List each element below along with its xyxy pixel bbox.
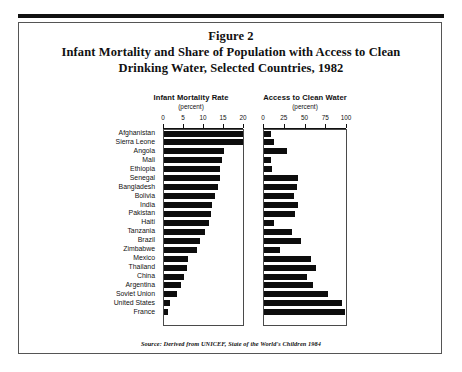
axis-tick xyxy=(243,124,244,128)
country-label: Bolivia xyxy=(73,192,159,201)
country-label: United States xyxy=(73,299,159,308)
bar-access-clean-water xyxy=(264,238,301,244)
bar-infant-mortality xyxy=(164,131,243,137)
table-row: Haiti xyxy=(19,218,443,227)
panel-headings: Infant Mortality Rate (percent) Access t… xyxy=(19,93,443,115)
table-row: Zimbabwe xyxy=(19,245,443,254)
bar-access-clean-water xyxy=(264,220,274,226)
bar-infant-mortality xyxy=(164,309,168,315)
country-label: Soviet Union xyxy=(73,290,159,299)
x-axis-water-labels: 0255075100 xyxy=(263,114,346,123)
chart-area: Infant Mortality Rate (percent) Access t… xyxy=(19,93,443,343)
bar-infant-mortality xyxy=(164,175,220,181)
country-label: Argentina xyxy=(73,281,159,290)
bar-access-clean-water xyxy=(264,291,328,297)
bar-infant-mortality xyxy=(164,193,215,199)
axis-tick-label: 10 xyxy=(199,114,206,121)
table-row: Angola xyxy=(19,147,443,156)
axis-tick xyxy=(183,124,184,128)
table-row: Senegal xyxy=(19,174,443,183)
country-label: Sierra Leone xyxy=(73,138,159,147)
axis-tick xyxy=(346,124,347,128)
axis-tick xyxy=(203,124,204,128)
country-label: Angola xyxy=(73,147,159,156)
bar-access-clean-water xyxy=(264,309,345,315)
country-label: China xyxy=(73,272,159,281)
bar-access-clean-water xyxy=(264,256,311,262)
bar-infant-mortality xyxy=(164,238,200,244)
axis-tick xyxy=(284,124,285,128)
bar-access-clean-water xyxy=(264,265,316,271)
bar-infant-mortality xyxy=(164,220,209,226)
bar-infant-mortality xyxy=(164,291,177,297)
bar-infant-mortality xyxy=(164,184,218,190)
country-label: Brazil xyxy=(73,236,159,245)
bar-access-clean-water xyxy=(264,300,342,306)
country-label: India xyxy=(73,201,159,210)
source-note: Source: Derived from UNICEF, State of th… xyxy=(19,340,443,347)
table-row: Mali xyxy=(19,156,443,165)
figure-title: Figure 2 Infant Mortality and Share of P… xyxy=(19,29,443,76)
bar-rows: AfghanistanSierra LeoneAngolaMaliEthiopi… xyxy=(19,129,443,326)
bar-access-clean-water xyxy=(264,211,295,217)
bar-access-clean-water xyxy=(264,193,294,199)
axis-tick-label: 5 xyxy=(181,114,185,121)
bar-access-clean-water xyxy=(264,139,274,145)
country-label: Bangladesh xyxy=(73,183,159,192)
country-label: Thailand xyxy=(73,263,159,272)
bar-access-clean-water xyxy=(264,157,271,163)
table-row: Ethiopia xyxy=(19,165,443,174)
axis-tick-label: 15 xyxy=(219,114,226,121)
bar-infant-mortality xyxy=(164,202,212,208)
table-row: Argentina xyxy=(19,281,443,290)
top-rule xyxy=(18,14,444,18)
axis-tick xyxy=(263,124,264,128)
axis-tick-label: 0 xyxy=(161,114,165,121)
axis-tick-label: 20 xyxy=(239,114,246,121)
axis-tick xyxy=(325,124,326,128)
title-line-3: Drinking Water, Selected Countries, 1982 xyxy=(19,60,443,76)
axis-tick xyxy=(163,124,164,128)
table-row: Brazil xyxy=(19,236,443,245)
panel-heading-mortality-text: Infant Mortality Rate xyxy=(153,93,228,102)
bar-infant-mortality xyxy=(164,166,220,172)
bar-access-clean-water xyxy=(264,274,307,280)
country-label: Haiti xyxy=(73,218,159,227)
country-label: Mali xyxy=(73,156,159,165)
bar-infant-mortality xyxy=(164,256,188,262)
bar-infant-mortality xyxy=(164,282,181,288)
country-label: Ethiopia xyxy=(73,165,159,174)
country-label: Afghanistan xyxy=(73,129,159,138)
bar-infant-mortality xyxy=(164,229,205,235)
bar-infant-mortality xyxy=(164,265,187,271)
table-row: India xyxy=(19,201,443,210)
axis-tick-label: 75 xyxy=(322,114,329,121)
table-row: Tanzania xyxy=(19,227,443,236)
bar-access-clean-water xyxy=(264,131,271,137)
country-label: France xyxy=(73,308,159,317)
axis-tick-label: 50 xyxy=(301,114,308,121)
x-axis-mortality-labels: 05101520 xyxy=(163,114,243,123)
panel-unit-mortality: (percent) xyxy=(137,103,245,110)
bar-access-clean-water xyxy=(264,202,298,208)
country-label: Pakistan xyxy=(73,209,159,218)
panel-heading-mortality: Infant Mortality Rate (percent) xyxy=(137,93,245,110)
table-row: Pakistan xyxy=(19,209,443,218)
axis-tick-label: 0 xyxy=(261,114,265,121)
panel-heading-water-text: Access to Clean Water xyxy=(263,93,347,102)
bar-access-clean-water xyxy=(264,148,287,154)
axis-tick xyxy=(223,124,224,128)
country-label: Zimbabwe xyxy=(73,245,159,254)
bar-infant-mortality xyxy=(164,139,243,145)
table-row: Bolivia xyxy=(19,192,443,201)
table-row: Bangladesh xyxy=(19,183,443,192)
x-axis-mortality: 05101520 xyxy=(163,114,243,130)
country-label: Mexico xyxy=(73,254,159,263)
bar-access-clean-water xyxy=(264,184,297,190)
bar-infant-mortality xyxy=(164,247,197,253)
table-row: Mexico xyxy=(19,254,443,263)
bar-access-clean-water xyxy=(264,229,292,235)
axis-tick xyxy=(305,124,306,128)
bar-infant-mortality xyxy=(164,274,184,280)
bar-infant-mortality xyxy=(164,211,211,217)
